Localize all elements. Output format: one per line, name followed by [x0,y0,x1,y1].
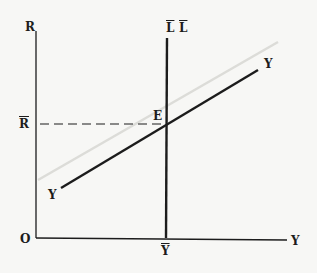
yy-curve [61,70,258,188]
ll-curve [166,38,167,238]
origin-label: O [20,233,30,245]
ll-label-second: L [179,22,187,34]
y-axis [36,238,287,240]
ll-label-first: L [166,22,174,34]
equilibrium-label: E [153,110,162,122]
y-bar-label: Y [161,245,170,257]
y-axis-label: Y [291,235,300,247]
r-axis-label: R [25,21,35,33]
is-lm-diagram: R R O Y Y L L E Y Y [0,0,317,273]
yy-end-label: Y [264,58,273,70]
yy-start-label: Y [48,189,57,201]
r-bar-label: R [19,118,29,130]
